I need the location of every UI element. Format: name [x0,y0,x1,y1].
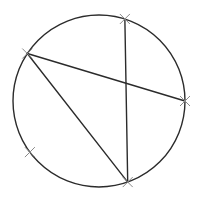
chord-BC [27,54,185,101]
geometry-diagram [0,0,198,203]
circle [13,15,185,187]
chords-group [27,19,185,182]
point-marker-E [25,147,35,157]
point-marker-B [22,49,32,59]
chord-AD [125,19,128,182]
chord-BD [27,54,127,183]
point-markers-group [22,14,190,187]
